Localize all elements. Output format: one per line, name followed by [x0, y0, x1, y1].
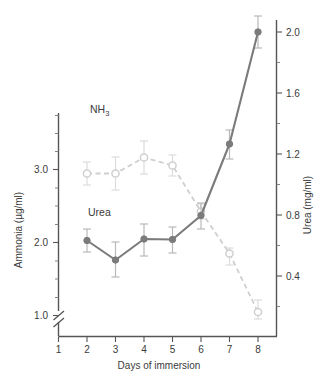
right-ticklabel-2-0: 2.0 — [286, 27, 300, 38]
urea-point-day2 — [84, 237, 90, 243]
nh3-point-day2 — [83, 170, 90, 177]
x-ticklabel-6: 6 — [198, 344, 204, 355]
urea-series-label: Urea — [88, 206, 111, 218]
right-ticklabel-1-6: 1.6 — [286, 88, 300, 99]
nh3-series-label: NH3 — [90, 103, 109, 118]
x-ticklabel-7: 7 — [227, 344, 233, 355]
urea-point-day6 — [198, 212, 204, 218]
nh3-point-day3 — [112, 170, 119, 177]
x-ticklabel-1: 1 — [56, 344, 62, 355]
dual-axis-line-chart: 3.0 2.0 1.0 2.0 1.6 1.2 0.8 0.4 — [0, 0, 319, 373]
nh3-point-day5 — [169, 162, 176, 169]
nh3-point-day7 — [226, 250, 233, 257]
nh3-label-text: NH — [90, 103, 105, 115]
left-y-ticks: 3.0 2.0 1.0 — [34, 116, 58, 322]
y-axis-title: Ammonia (µg/ml) — [13, 192, 24, 268]
y2-axis-title: Urea (mg/ml) — [302, 176, 313, 234]
right-ticklabel-0-8: 0.8 — [286, 210, 300, 221]
x-ticklabel-5: 5 — [170, 344, 176, 355]
x-ticklabel-3: 3 — [113, 344, 119, 355]
chart-figure: 3.0 2.0 1.0 2.0 1.6 1.2 0.8 0.4 — [0, 0, 319, 373]
left-ticklabel-1-0: 1.0 — [34, 310, 48, 321]
urea-point-day4 — [141, 236, 147, 242]
x-ticks: 1 2 3 4 5 6 7 8 — [56, 337, 262, 356]
right-y-ticks: 2.0 1.6 1.2 0.8 0.4 — [277, 27, 301, 307]
nh3-point-day8 — [254, 308, 261, 315]
left-ticklabel-3-0: 3.0 — [34, 164, 48, 175]
x-ticklabel-2: 2 — [84, 344, 90, 355]
right-ticklabel-1-2: 1.2 — [286, 149, 300, 160]
left-ticklabel-2-0: 2.0 — [34, 237, 48, 248]
x-ticklabel-4: 4 — [141, 344, 147, 355]
urea-point-day5 — [169, 236, 175, 242]
urea-point-day8 — [255, 29, 261, 35]
nh3-point-day4 — [140, 154, 147, 161]
x-ticklabel-8: 8 — [255, 344, 261, 355]
series-urea — [83, 16, 262, 277]
x-axis-title: Days of immersion — [118, 360, 201, 371]
urea-point-day3 — [112, 257, 118, 263]
right-ticklabel-0-4: 0.4 — [286, 271, 300, 282]
nh3-label-subscript: 3 — [105, 109, 109, 118]
urea-point-day7 — [226, 141, 232, 147]
